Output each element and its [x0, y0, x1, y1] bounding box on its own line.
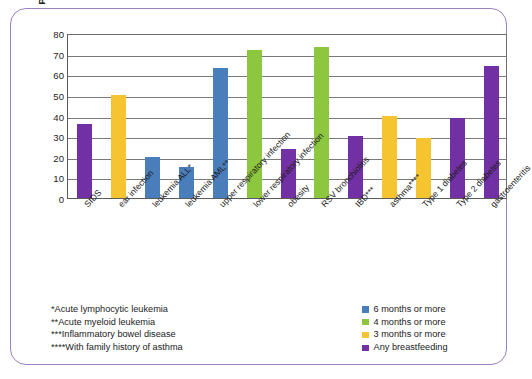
gridline — [68, 76, 506, 77]
legend-item-label: 6 months or more — [374, 305, 446, 314]
footnote: *Acute lymphocytic leukemia — [51, 303, 183, 316]
legend-swatch-icon — [362, 306, 369, 313]
bar — [77, 124, 92, 198]
gridline — [68, 56, 506, 57]
footnote-list: *Acute lymphocytic leukemia**Acute myelo… — [51, 303, 183, 353]
y-axis-tick-label: 30 — [53, 133, 64, 143]
y-axis-title: Percent decreased heath risk — [35, 0, 49, 28]
gridline — [68, 97, 506, 98]
legend-item: 6 months or more — [362, 303, 448, 316]
legend-item-label: 3 months or more — [374, 330, 446, 339]
legend-item-label: Any breastfeeding — [374, 343, 448, 352]
legend: 6 months or more4 months or more3 months… — [362, 303, 448, 354]
y-axis-tick-label: 0 — [59, 195, 64, 205]
y-axis-tick-label: 70 — [53, 51, 64, 61]
bar — [416, 138, 431, 198]
legend-item: 4 months or more — [362, 316, 448, 329]
footnote: **Acute myeloid leukemia — [51, 316, 183, 329]
y-axis-tick-label: 60 — [53, 71, 64, 81]
y-axis-tick-label: 20 — [53, 154, 64, 164]
legend-swatch-icon — [362, 319, 369, 326]
footnote: ****With family history of asthma — [51, 341, 183, 354]
footnote: ***Inflammatory bowel disease — [51, 328, 183, 341]
y-axis-tick-label: 40 — [53, 113, 64, 123]
bar — [111, 95, 126, 198]
bar — [382, 116, 397, 199]
legend-item: Any breastfeeding — [362, 341, 448, 354]
legend-item-label: 4 months or more — [374, 318, 446, 327]
y-axis-tick-labels: 01020304050607080 — [42, 35, 64, 198]
gridline — [68, 118, 506, 119]
y-axis-tick-label: 50 — [53, 92, 64, 102]
y-axis-tick-label: 80 — [53, 30, 64, 40]
legend-item: 3 months or more — [362, 329, 448, 342]
legend-swatch-icon — [362, 345, 369, 352]
legend-swatch-icon — [362, 332, 369, 339]
y-axis-tick-label: 10 — [53, 175, 64, 185]
x-axis-tick-labels: SIDSear infectionleukemia ALL*leukemia A… — [67, 201, 507, 296]
figure-frame: Percent decreased heath risk 01020304050… — [10, 8, 507, 365]
bar — [314, 47, 329, 198]
